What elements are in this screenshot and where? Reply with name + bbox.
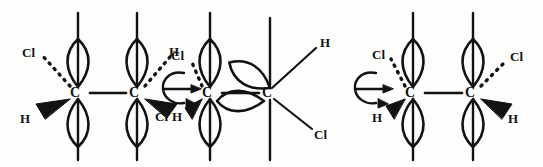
diagram-artwork — [0, 0, 543, 167]
carbon-label-c5: C — [405, 86, 415, 100]
structure-1 — [36, 13, 177, 160]
substituent-label-cl-c2: Cl — [155, 110, 168, 123]
substituent-label-h-c5: H — [372, 111, 382, 124]
rotation-arrow-2 — [355, 72, 393, 108]
carbon-label-c3: C — [202, 86, 212, 100]
substituent-label-cl-c6: Cl — [510, 50, 523, 63]
substituent-label-h-c4: H — [320, 36, 330, 49]
substituent-label-h-c1: H — [20, 112, 30, 125]
substituent-label-cl-c5: Cl — [372, 48, 385, 61]
carbon-c1-group — [36, 13, 89, 160]
carbon-label-c6: C — [465, 86, 475, 100]
substituent-label-cl-c3: Cl — [171, 49, 184, 62]
substituent-label-h-c6: H — [508, 112, 518, 125]
substituent-label-h-c3: H — [172, 110, 182, 123]
carbon-label-c4: C — [262, 86, 272, 100]
orbital-rotation-diagram: C Cl H C H Cl C Cl H C H Cl C Cl H C Cl … — [0, 0, 543, 167]
substituent-label-cl-c4: Cl — [314, 128, 327, 141]
carbon-label-c2: C — [129, 86, 139, 100]
substituent-label-cl-c1: Cl — [22, 46, 35, 59]
carbon-label-c1: C — [70, 86, 80, 100]
